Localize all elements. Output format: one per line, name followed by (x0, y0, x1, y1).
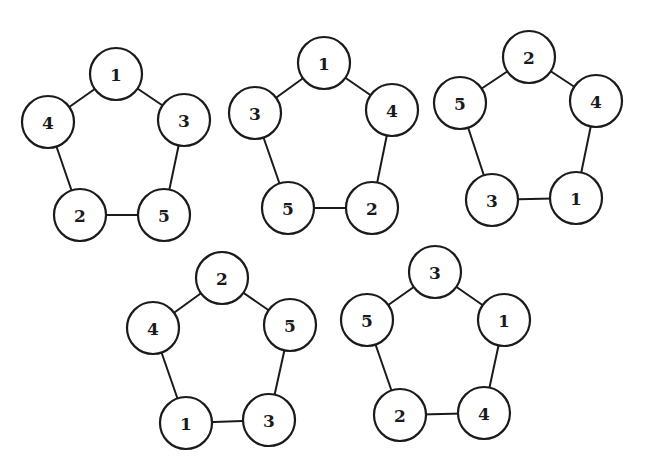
graph-node: 1 (478, 294, 530, 346)
graph-node: 2 (374, 389, 426, 441)
node-label: 1 (318, 54, 330, 74)
graph-node: 4 (22, 96, 74, 148)
graph-node: 3 (229, 87, 281, 139)
node-label: 1 (498, 311, 510, 331)
node-label: 5 (361, 311, 373, 331)
node-label: 3 (429, 263, 441, 283)
node-label: 4 (147, 319, 159, 339)
graph-node: 1 (550, 172, 602, 224)
node-label: 3 (263, 411, 275, 431)
node-label: 2 (216, 269, 228, 289)
node-label: 2 (366, 199, 378, 219)
graph-node: 3 (409, 246, 461, 298)
node-label: 3 (178, 111, 190, 131)
graph-node: 1 (298, 37, 350, 89)
graph-node: 5 (341, 294, 393, 346)
diagram-canvas: 1352414253241352531431425 (0, 0, 651, 473)
node-label: 2 (74, 206, 86, 226)
node-label: 5 (158, 206, 170, 226)
node-label: 4 (386, 101, 398, 121)
graph-node: 4 (127, 302, 179, 354)
node-label: 3 (486, 191, 498, 211)
graph-node: 3 (466, 174, 518, 226)
node-label: 3 (249, 104, 261, 124)
graph-node: 3 (158, 94, 210, 146)
node-label: 1 (110, 65, 122, 85)
node-label: 2 (394, 406, 406, 426)
graph-node: 2 (54, 189, 106, 241)
graph-node: 5 (138, 189, 190, 241)
graph-node: 4 (366, 84, 418, 136)
graph-node: 2 (196, 252, 248, 304)
graph-node: 2 (503, 31, 555, 83)
graph-node: 5 (264, 299, 316, 351)
graph-node: 3 (243, 394, 295, 446)
node-label: 5 (282, 199, 294, 219)
graph-node: 4 (458, 387, 510, 439)
graph-node: 4 (570, 75, 622, 127)
node-label: 1 (180, 414, 192, 434)
node-label: 1 (570, 189, 582, 209)
node-label: 2 (523, 48, 535, 68)
node-label: 4 (590, 92, 602, 112)
graph-node: 5 (434, 77, 486, 129)
graph-node: 1 (160, 397, 212, 449)
node-label: 5 (454, 94, 466, 114)
graph-node: 5 (262, 182, 314, 234)
node-label: 5 (284, 316, 296, 336)
graph-node: 1 (90, 48, 142, 100)
node-label: 4 (478, 404, 490, 424)
graph-node: 2 (346, 182, 398, 234)
node-label: 4 (42, 113, 54, 133)
